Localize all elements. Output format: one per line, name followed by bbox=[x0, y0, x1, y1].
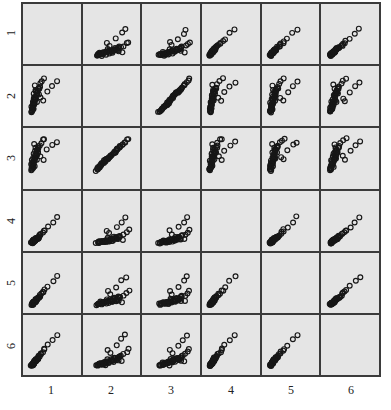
scatter-points bbox=[23, 128, 81, 188]
data-point bbox=[227, 84, 232, 89]
data-point bbox=[41, 158, 46, 163]
data-point bbox=[55, 214, 60, 219]
matrix-cell-diagonal-4 bbox=[202, 191, 260, 251]
data-point bbox=[55, 333, 60, 338]
data-point bbox=[50, 143, 55, 148]
data-point bbox=[358, 139, 363, 144]
data-point bbox=[228, 144, 233, 149]
data-point bbox=[232, 333, 237, 338]
scatter-points bbox=[23, 315, 81, 375]
data-point bbox=[353, 31, 358, 36]
matrix-cell-2-vs-3 bbox=[142, 66, 200, 126]
matrix-cell-4-vs-6 bbox=[321, 191, 379, 251]
scatter-points bbox=[202, 128, 260, 188]
data-point bbox=[45, 342, 50, 347]
matrix-cell-3-vs-4 bbox=[202, 128, 260, 188]
data-point bbox=[284, 36, 289, 41]
matrix-cell-2-vs-6 bbox=[321, 66, 379, 126]
scatter-points bbox=[23, 191, 81, 251]
scatter-points bbox=[202, 4, 260, 64]
matrix-cell-5-vs-1 bbox=[23, 253, 81, 313]
data-point bbox=[51, 278, 56, 283]
scatterplot-matrix-figure: 123456 123456 bbox=[0, 0, 391, 410]
data-point bbox=[55, 79, 60, 84]
data-point bbox=[177, 224, 182, 229]
data-point bbox=[353, 220, 358, 225]
data-point bbox=[176, 343, 181, 348]
matrix-cell-5-vs-2 bbox=[83, 253, 141, 313]
scatter-points bbox=[142, 4, 200, 64]
scatter-points bbox=[83, 4, 141, 64]
column-label-3: 3 bbox=[141, 379, 201, 401]
matrix-cell-5-vs-6 bbox=[321, 253, 379, 313]
data-point bbox=[343, 158, 348, 163]
matrix-cell-5-vs-4 bbox=[202, 253, 260, 313]
data-point bbox=[348, 90, 353, 95]
data-point bbox=[221, 76, 226, 81]
scatter-points bbox=[23, 253, 81, 313]
scatter-points bbox=[83, 191, 141, 251]
matrix-cell-2-vs-4 bbox=[202, 66, 260, 126]
data-point bbox=[167, 227, 172, 232]
matrix-panel-area bbox=[21, 2, 381, 377]
data-point bbox=[290, 220, 295, 225]
data-point bbox=[185, 333, 190, 338]
matrix-cell-3-vs-6 bbox=[321, 128, 379, 188]
scatter-points bbox=[202, 315, 260, 375]
scatter-points bbox=[202, 66, 260, 126]
data-point bbox=[233, 80, 238, 85]
data-point bbox=[348, 36, 353, 41]
matrix-cell-4-vs-3 bbox=[142, 191, 200, 251]
data-point bbox=[289, 30, 294, 35]
matrix-cell-diagonal-2 bbox=[83, 66, 141, 126]
data-point bbox=[114, 343, 119, 348]
data-point bbox=[281, 76, 286, 81]
row-label-1: 1 bbox=[0, 2, 21, 65]
data-point bbox=[176, 37, 181, 42]
data-point bbox=[353, 143, 358, 148]
matrix-cell-1-vs-2 bbox=[83, 4, 141, 64]
data-point bbox=[357, 214, 362, 219]
data-point bbox=[285, 90, 290, 95]
scatter-points bbox=[142, 315, 200, 375]
data-point bbox=[227, 30, 232, 35]
column-axis-labels: 123456 bbox=[21, 379, 381, 401]
data-point bbox=[113, 285, 118, 290]
data-point bbox=[185, 214, 190, 219]
scatter-points bbox=[83, 128, 141, 188]
data-point bbox=[219, 99, 224, 104]
matrix-cell-6-vs-1 bbox=[23, 315, 81, 375]
data-point bbox=[227, 338, 232, 343]
matrix-cell-1-vs-3 bbox=[142, 4, 200, 64]
matrix-cell-6-vs-5 bbox=[262, 315, 320, 375]
data-point bbox=[45, 89, 50, 94]
data-point bbox=[222, 149, 227, 154]
matrix-cell-diagonal-6 bbox=[321, 315, 379, 375]
matrix-cell-diagonal-3 bbox=[142, 128, 200, 188]
column-label-2: 2 bbox=[81, 379, 141, 401]
data-point bbox=[119, 219, 124, 224]
data-point bbox=[290, 337, 295, 342]
data-point bbox=[44, 147, 49, 152]
data-point bbox=[123, 275, 128, 280]
row-label-2: 2 bbox=[0, 65, 21, 128]
row-label-text: 4 bbox=[5, 218, 17, 224]
scatter-points bbox=[262, 315, 320, 375]
matrix-cell-6-vs-4 bbox=[202, 315, 260, 375]
data-point bbox=[294, 213, 299, 218]
data-point bbox=[219, 158, 224, 163]
data-point bbox=[290, 84, 295, 89]
scatter-points bbox=[321, 128, 379, 188]
data-point bbox=[357, 26, 362, 31]
data-point bbox=[118, 336, 123, 341]
matrix-cell-3-vs-5 bbox=[262, 128, 320, 188]
data-point bbox=[46, 224, 51, 229]
row-label-3: 3 bbox=[0, 127, 21, 190]
matrix-cell-4-vs-5 bbox=[262, 191, 320, 251]
data-point bbox=[233, 139, 238, 144]
scatter-points bbox=[321, 4, 379, 64]
data-point bbox=[349, 225, 354, 230]
data-point bbox=[357, 80, 362, 85]
matrix-grid bbox=[21, 2, 381, 377]
data-point bbox=[284, 343, 289, 348]
